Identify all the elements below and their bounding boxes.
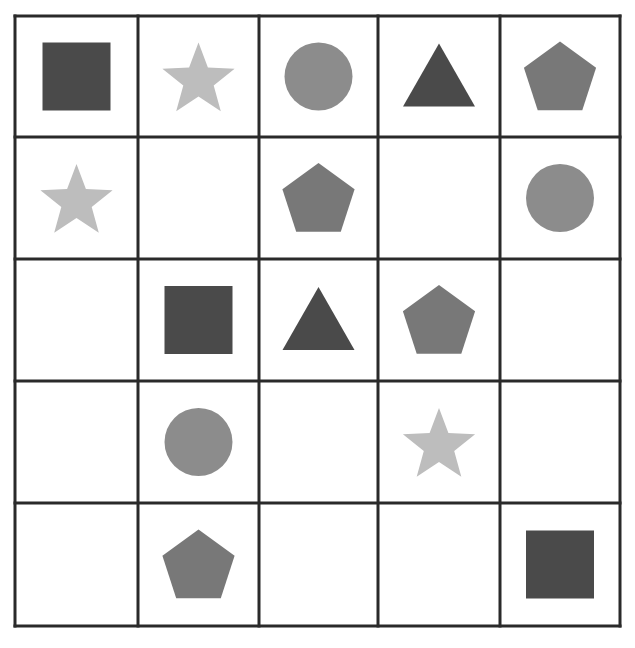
- square-icon: [43, 43, 111, 111]
- grid-cell: [524, 42, 596, 111]
- shape-grid: [0, 0, 635, 648]
- grid-cell: [43, 43, 111, 111]
- grid-cell: [282, 163, 354, 232]
- grid-cell: [165, 286, 233, 354]
- pentagon-icon: [403, 285, 475, 354]
- pentagon-icon: [524, 42, 596, 111]
- triangle-icon: [403, 44, 475, 107]
- circle-icon: [285, 43, 353, 111]
- grid-cell: [526, 164, 594, 232]
- grid-cell: [403, 408, 475, 477]
- star-icon: [162, 43, 234, 112]
- square-icon: [526, 531, 594, 599]
- square-icon: [165, 286, 233, 354]
- pentagon-icon: [162, 530, 234, 599]
- grid-cell: [403, 44, 475, 107]
- grid-cell: [526, 531, 594, 599]
- circle-icon: [165, 408, 233, 476]
- grid-cell: [162, 43, 234, 112]
- triangle-icon: [283, 287, 355, 350]
- grid-cell: [403, 285, 475, 354]
- star-icon: [403, 408, 475, 477]
- grid-cell: [165, 408, 233, 476]
- grid-cell: [162, 530, 234, 599]
- grid-cell: [283, 287, 355, 350]
- star-icon: [40, 164, 112, 233]
- grid-cell: [40, 164, 112, 233]
- pentagon-icon: [282, 163, 354, 232]
- grid-cell: [285, 43, 353, 111]
- circle-icon: [526, 164, 594, 232]
